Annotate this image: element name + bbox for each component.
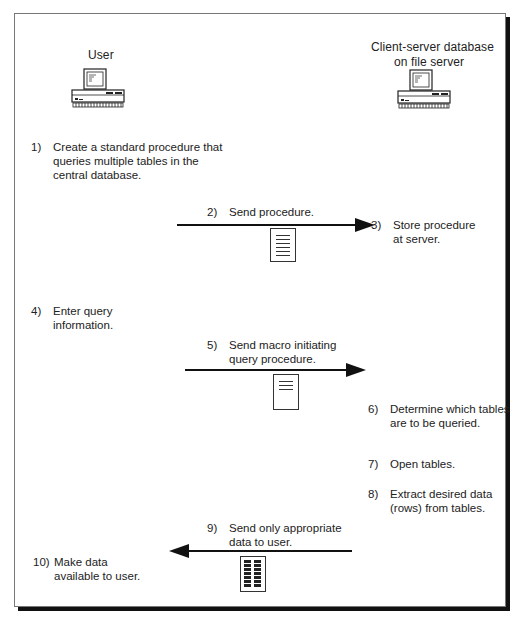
step-text-line: central database. [53, 168, 222, 182]
step-text-line: query procedure. [229, 352, 336, 366]
step-text-line: Store procedure [393, 218, 475, 232]
step-number: 2) [207, 205, 229, 219]
step-2: 2) Send procedure. [207, 205, 314, 219]
step-number: 10) [33, 555, 54, 583]
step-text-line: Extract desired data [390, 487, 492, 501]
step-text-line: are to be queried. [390, 416, 510, 430]
user-computer-icon [70, 68, 126, 110]
step-text-line: Make data [54, 555, 140, 569]
step-text-line: Open tables. [390, 457, 455, 471]
step-text-line: Send macro initiating [229, 338, 336, 352]
step-text-line: available to user. [54, 569, 140, 583]
step-3: 3) Store procedure at server. [371, 218, 475, 246]
document-icon [273, 374, 299, 410]
table-data-icon [240, 556, 266, 592]
step-text-line: Create a standard procedure that [53, 140, 222, 154]
step-number: 4) [31, 304, 53, 332]
step-5: 5) Send macro initiating query procedure… [207, 338, 336, 366]
step-8: 8) Extract desired data (rows) from tabl… [368, 487, 492, 515]
step-4: 4) Enter query information. [31, 304, 113, 332]
step-number: 5) [207, 338, 229, 366]
step-number: 7) [368, 457, 390, 471]
send-procedure-arrow [177, 224, 357, 226]
step-text-line: data to user. [229, 535, 342, 549]
step-number: 1) [31, 140, 53, 182]
step-text-line: information. [53, 318, 113, 332]
document-icon [270, 228, 296, 262]
step-10: 10) Make data available to user. [33, 555, 140, 583]
step-number: 8) [368, 487, 390, 515]
server-label-line2: on file server [394, 55, 464, 69]
step-number: 6) [368, 402, 390, 430]
step-number: 3) [371, 218, 393, 246]
step-6: 6) Determine which tables are to be quer… [368, 402, 510, 430]
step-text-line: Send procedure. [229, 205, 314, 219]
step-text-line: at server. [393, 232, 475, 246]
user-label: User [88, 48, 114, 62]
step-9: 9) Send only appropriate data to user. [207, 521, 342, 549]
step-text-line: Enter query [53, 304, 113, 318]
step-1: 1) Create a standard procedure that quer… [31, 140, 222, 182]
step-text-line: Send only appropriate [229, 521, 342, 535]
step-text-line: Determine which tables [390, 402, 510, 416]
step-number: 9) [207, 521, 229, 549]
server-label-line1: Client-server database [371, 40, 494, 54]
server-computer-icon [396, 69, 452, 111]
send-macro-arrow [185, 369, 348, 371]
step-7: 7) Open tables. [368, 457, 455, 471]
step-text-line: (rows) from tables. [390, 501, 492, 515]
send-data-arrow [187, 550, 352, 552]
step-text-line: queries multiple tables in the [53, 154, 222, 168]
